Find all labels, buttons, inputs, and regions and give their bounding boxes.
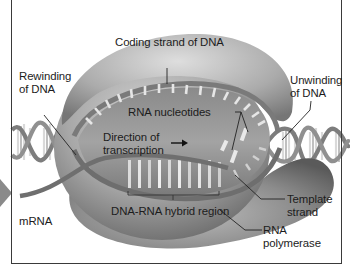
label-rewinding-line1: Rewinding: [19, 70, 71, 83]
label-hybrid-region: DNA-RNA hybrid region: [111, 205, 229, 218]
label-direction-line2: transcription: [103, 144, 164, 157]
label-unwinding-line1: Unwinding: [290, 74, 342, 87]
label-template-line2: strand: [287, 206, 318, 219]
label-polymerase-line2: polymerase: [263, 237, 321, 250]
label-unwinding-line2: of DNA: [290, 87, 326, 100]
label-rewinding-line2: of DNA: [19, 83, 55, 96]
label-direction-line1: Direction of: [103, 131, 159, 144]
transcription-diagram: Coding strand of DNA Rewinding of DNA Un…: [0, 0, 350, 276]
label-rna-nucleotides: RNA nucleotides: [128, 106, 211, 119]
label-polymerase-line1: RNA: [263, 224, 287, 237]
label-coding-strand: Coding strand of DNA: [115, 36, 224, 49]
label-template-line1: Template: [287, 193, 332, 206]
label-mrna: mRNA: [19, 215, 52, 228]
